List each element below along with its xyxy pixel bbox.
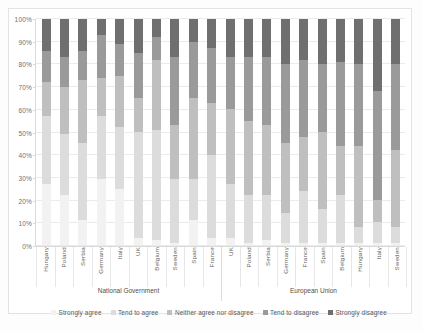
bar-segment[interactable] — [262, 125, 271, 195]
bar-segment[interactable] — [244, 19, 253, 57]
bar-segment[interactable] — [318, 64, 327, 132]
bar-segment[interactable] — [244, 243, 253, 245]
bar-segment[interactable] — [189, 42, 198, 99]
bar-segment[interactable] — [281, 213, 290, 242]
bar-segment[interactable] — [97, 19, 106, 35]
stacked-bar[interactable] — [244, 19, 253, 245]
legend-item[interactable]: Neither agree nor disagree — [167, 309, 253, 316]
bar-segment[interactable] — [336, 19, 345, 62]
legend-item[interactable]: Tend to disagree — [263, 309, 319, 316]
bar-segment[interactable] — [170, 57, 179, 125]
stacked-bar[interactable] — [354, 19, 363, 245]
bar-segment[interactable] — [78, 51, 87, 80]
bar-segment[interactable] — [244, 195, 253, 242]
bar-segment[interactable] — [207, 238, 216, 245]
bar-segment[interactable] — [391, 19, 400, 64]
bar-segment[interactable] — [152, 19, 161, 37]
bar-segment[interactable] — [134, 53, 143, 98]
bar-segment[interactable] — [78, 19, 87, 51]
bar-segment[interactable] — [354, 243, 363, 245]
bar-segment[interactable] — [115, 44, 124, 76]
bar-segment[interactable] — [152, 240, 161, 245]
bar-segment[interactable] — [78, 143, 87, 220]
stacked-bar[interactable] — [170, 19, 179, 245]
bar-segment[interactable] — [115, 19, 124, 44]
bar-segment[interactable] — [115, 76, 124, 128]
stacked-bar[interactable] — [226, 19, 235, 245]
bar-segment[interactable] — [299, 243, 308, 245]
bar-segment[interactable] — [262, 240, 271, 245]
bar-segment[interactable] — [97, 78, 106, 116]
bar-segment[interactable] — [152, 37, 161, 60]
bar-segment[interactable] — [60, 195, 69, 245]
bar-segment[interactable] — [60, 19, 69, 57]
bar-segment[interactable] — [170, 243, 179, 245]
bar-segment[interactable] — [60, 134, 69, 195]
bar-segment[interactable] — [318, 132, 327, 209]
stacked-bar[interactable] — [134, 19, 143, 245]
bar-segment[interactable] — [226, 57, 235, 109]
bar-segment[interactable] — [207, 48, 216, 102]
stacked-bar[interactable] — [336, 19, 345, 245]
legend-item[interactable]: Strongly disagree — [328, 309, 387, 316]
bar-segment[interactable] — [189, 220, 198, 245]
legend-item[interactable]: Tend to agree — [111, 309, 159, 316]
bar-segment[interactable] — [373, 200, 382, 223]
bar-segment[interactable] — [244, 57, 253, 120]
bar-segment[interactable] — [373, 19, 382, 91]
bar-segment[interactable] — [170, 19, 179, 57]
stacked-bar[interactable] — [373, 19, 382, 245]
bar-segment[interactable] — [189, 98, 198, 179]
stacked-bar[interactable] — [115, 19, 124, 245]
bar-segment[interactable] — [134, 132, 143, 238]
bar-segment[interactable] — [244, 121, 253, 196]
bar-segment[interactable] — [354, 146, 363, 227]
bar-segment[interactable] — [318, 19, 327, 64]
bar-segment[interactable] — [152, 130, 161, 241]
bar-segment[interactable] — [318, 209, 327, 243]
bar-segment[interactable] — [373, 243, 382, 245]
stacked-bar[interactable] — [391, 19, 400, 245]
bar-segment[interactable] — [391, 227, 400, 243]
bar-segment[interactable] — [78, 220, 87, 245]
bar-segment[interactable] — [299, 137, 308, 191]
bar-segment[interactable] — [391, 150, 400, 227]
stacked-bar[interactable] — [60, 19, 69, 245]
bar-segment[interactable] — [262, 19, 271, 57]
bar-segment[interactable] — [189, 19, 198, 42]
bar-segment[interactable] — [354, 19, 363, 64]
bar-segment[interactable] — [354, 64, 363, 145]
bar-segment[interactable] — [170, 125, 179, 179]
bar-segment[interactable] — [373, 222, 382, 242]
bar-segment[interactable] — [97, 179, 106, 245]
stacked-bar[interactable] — [189, 19, 198, 245]
stacked-bar[interactable] — [97, 19, 106, 245]
bar-segment[interactable] — [336, 146, 345, 196]
bar-segment[interactable] — [189, 179, 198, 220]
bar-segment[interactable] — [42, 82, 51, 116]
bar-segment[interactable] — [281, 19, 290, 64]
bar-segment[interactable] — [391, 64, 400, 150]
bar-segment[interactable] — [281, 143, 290, 213]
bar-segment[interactable] — [42, 116, 51, 184]
bar-segment[interactable] — [115, 127, 124, 188]
bar-segment[interactable] — [97, 116, 106, 179]
stacked-bar[interactable] — [262, 19, 271, 245]
bar-segment[interactable] — [207, 19, 216, 48]
bar-segment[interactable] — [336, 62, 345, 146]
bar-segment[interactable] — [134, 98, 143, 132]
bar-segment[interactable] — [354, 227, 363, 243]
bar-segment[interactable] — [262, 57, 271, 125]
bar-segment[interactable] — [336, 195, 345, 242]
bar-segment[interactable] — [60, 87, 69, 134]
stacked-bar[interactable] — [42, 19, 51, 245]
stacked-bar[interactable] — [78, 19, 87, 245]
bar-segment[interactable] — [299, 191, 308, 243]
stacked-bar[interactable] — [152, 19, 161, 245]
bar-segment[interactable] — [373, 91, 382, 199]
bar-segment[interactable] — [78, 80, 87, 143]
bar-segment[interactable] — [207, 155, 216, 239]
bar-segment[interactable] — [226, 184, 235, 238]
bar-segment[interactable] — [299, 19, 308, 60]
bar-segment[interactable] — [318, 243, 327, 245]
